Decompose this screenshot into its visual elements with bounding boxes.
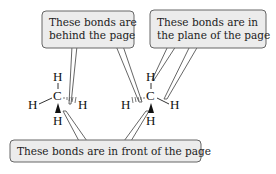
atom-h-left: H bbox=[121, 97, 130, 112]
callout-plane-line1: These bonds are in bbox=[157, 16, 258, 28]
atom-h-right: H bbox=[170, 97, 179, 112]
atom-h-bottom: H bbox=[53, 113, 62, 128]
wedge-bond-bottom bbox=[148, 103, 154, 113]
plane-pointers bbox=[152, 46, 198, 99]
atom-h-top: H bbox=[146, 69, 155, 84]
bond-left bbox=[39, 98, 52, 104]
behind-pointer-right bbox=[116, 46, 142, 102]
callout-behind-line2: behind the page bbox=[49, 29, 135, 41]
front-pointer-left bbox=[63, 111, 87, 141]
behind-pointers bbox=[69, 46, 142, 104]
behind-pointer-left bbox=[69, 46, 77, 104]
plane-pointer-left bbox=[152, 46, 176, 80]
atom-h-bottom: H bbox=[146, 113, 155, 128]
front-pointers bbox=[63, 111, 149, 141]
callout-front: These bonds are in front of the page bbox=[10, 140, 211, 162]
atom-c: C bbox=[146, 88, 155, 103]
atom-h-top: H bbox=[53, 69, 62, 84]
methane-left: H C H H H bbox=[28, 69, 87, 128]
wedge-bond-bottom bbox=[55, 103, 61, 113]
callout-front-line1: These bonds are in front of the page bbox=[17, 145, 211, 157]
callout-plane: These bonds are in the plane of the page bbox=[150, 10, 270, 48]
atom-h-left: H bbox=[28, 97, 37, 112]
atom-c: C bbox=[53, 88, 62, 103]
callout-plane-line2: the plane of the page bbox=[157, 29, 270, 41]
atom-h-right: H bbox=[78, 97, 87, 112]
callout-behind-line1: These bonds are bbox=[49, 16, 137, 28]
callout-behind: These bonds are behind the page bbox=[42, 11, 137, 48]
stereochemistry-diagram: These bonds are behind the page These bo… bbox=[0, 0, 276, 174]
